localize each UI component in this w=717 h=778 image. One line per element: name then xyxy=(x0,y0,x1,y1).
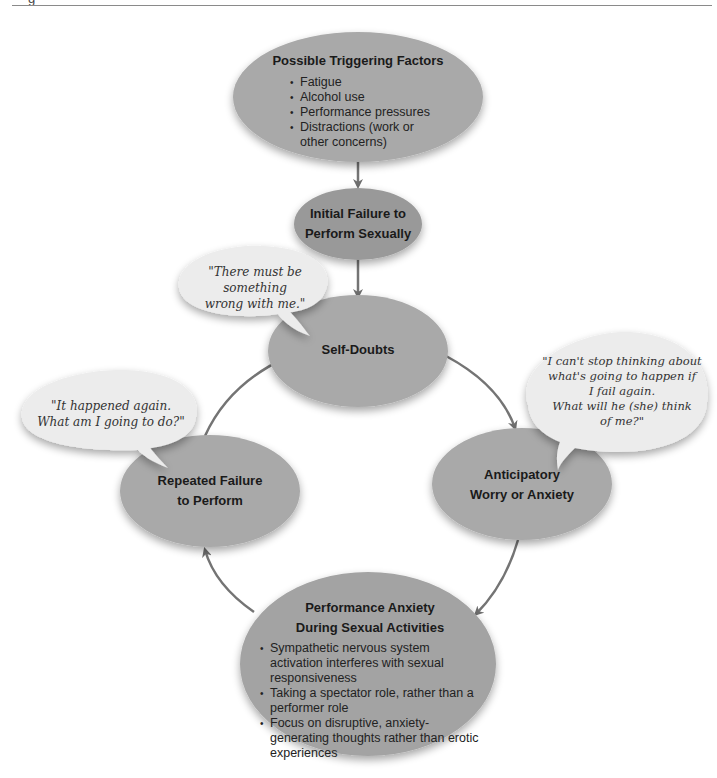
node-initial-failure: Initial Failure to Perform Sexually xyxy=(294,194,422,254)
node-performance-title-line2: During Sexual Activities xyxy=(296,618,444,638)
node-triggering-title: Possible Triggering Factors xyxy=(272,51,443,71)
node-repeated-title-line2: to Perform xyxy=(177,491,243,511)
node-self-doubts: Self-Doubts xyxy=(268,330,448,370)
bubble-repeated-line2: What am I going to do?" xyxy=(28,414,194,430)
trigger-item: Fatigue xyxy=(300,75,430,90)
bubble-selfdoubts-line2: wrong with me." xyxy=(182,296,328,312)
node-repeated-failure: Repeated Failure to Perform xyxy=(120,466,300,516)
trigger-item: Distractions (work or other concerns) xyxy=(300,120,430,150)
node-initial-title-line1: Initial Failure to xyxy=(310,204,406,224)
bubble-anticipatory: "I can't stop thinking about what's goin… xyxy=(534,354,710,429)
node-anticipatory-worry: Anticipatory Worry or Anxiety xyxy=(432,460,612,510)
node-repeated-title-line1: Repeated Failure xyxy=(158,471,263,491)
bubble-selfdoubts-line1: "There must be something xyxy=(182,264,328,296)
node-initial-title-line2: Perform Sexually xyxy=(305,224,411,244)
bubble-anticipatory-line2: what's going to happen if xyxy=(534,369,710,384)
arrow-performance-to-repeated xyxy=(205,550,254,612)
performance-item: Sympathetic nervous system activation in… xyxy=(270,641,484,686)
arrow-selfdoubts-to-anticipatory xyxy=(446,356,515,428)
bubble-repeated: "It happened again. What am I going to d… xyxy=(28,398,194,430)
node-anticipatory-title-line1: Anticipatory xyxy=(484,465,560,485)
bubble-anticipatory-line4: What will he (she) think xyxy=(534,399,710,414)
performance-item: Focus on disruptive, anxiety-generating … xyxy=(270,716,484,761)
node-triggering-factors: Possible Triggering Factors Fatigue Alco… xyxy=(243,40,473,160)
node-anticipatory-title-line2: Worry or Anxiety xyxy=(470,485,574,505)
bubble-anticipatory-line1: "I can't stop thinking about xyxy=(534,354,710,369)
bubble-anticipatory-line3: I fail again. xyxy=(534,384,710,399)
bubble-anticipatory-line5: of me?" xyxy=(534,414,710,429)
performance-item: Taking a spectator role, rather than a p… xyxy=(270,686,484,716)
node-performance-anxiety: Performance Anxiety During Sexual Activi… xyxy=(250,598,490,718)
performance-list: Sympathetic nervous system activation in… xyxy=(256,641,484,761)
bubble-self-doubts: "There must be something wrong with me." xyxy=(182,264,328,312)
trigger-item: Performance pressures xyxy=(300,105,430,120)
bubble-repeated-line1: "It happened again. xyxy=(28,398,194,414)
triggering-list: Fatigue Alcohol use Performance pressure… xyxy=(286,75,430,150)
trigger-item: Alcohol use xyxy=(300,90,430,105)
node-performance-title-line1: Performance Anxiety xyxy=(305,598,435,618)
node-selfdoubts-title: Self-Doubts xyxy=(322,340,395,360)
